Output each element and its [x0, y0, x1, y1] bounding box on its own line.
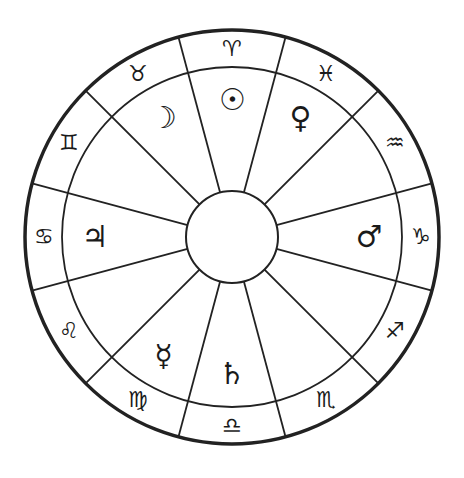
house-cusp-line — [265, 270, 379, 384]
aquarius-sign-icon: ♒︎ — [385, 132, 405, 154]
taurus-sign-icon: ♉︎ — [128, 63, 148, 85]
house-cusp-line — [276, 183, 432, 225]
mercury-planet-icon: ☿︎ — [154, 341, 172, 371]
house-cusp-line — [265, 91, 379, 205]
house-cusp-line — [32, 249, 188, 291]
saturn-planet-icon: ♄︎ — [219, 359, 246, 389]
aries-sign-icon: ♈︎ — [222, 38, 242, 60]
sun-planet-icon: ☉︎ — [219, 85, 246, 115]
zodiac-wheel — [0, 0, 464, 478]
house-cusp-line — [86, 91, 200, 205]
house-cusp-line — [178, 37, 220, 193]
scorpio-sign-icon: ♏︎ — [316, 389, 336, 411]
pisces-sign-icon: ♓︎ — [316, 63, 336, 85]
house-cusp-line — [86, 270, 200, 384]
capricorn-sign-icon: ♑︎ — [411, 226, 431, 248]
center-hub — [186, 191, 278, 283]
moon-planet-icon: ☽︎ — [150, 103, 177, 133]
sagittarius-sign-icon: ♐︎ — [385, 320, 405, 342]
venus-planet-icon: ♀︎ — [290, 103, 312, 133]
house-cusp-line — [244, 281, 286, 437]
gemini-sign-icon: ♊︎ — [59, 132, 79, 154]
house-cusp-line — [32, 183, 188, 225]
leo-sign-icon: ♌︎ — [59, 320, 79, 342]
house-cusp-line — [178, 281, 220, 437]
jupiter-planet-icon: ♃︎ — [82, 222, 109, 252]
house-cusp-line — [244, 37, 286, 193]
house-cusp-line — [276, 249, 432, 291]
mars-planet-icon: ♂︎ — [356, 222, 383, 252]
cancer-sign-icon: ♋︎ — [34, 226, 54, 248]
libra-sign-icon: ♎︎ — [222, 415, 242, 437]
virgo-sign-icon: ♍︎ — [128, 389, 148, 411]
